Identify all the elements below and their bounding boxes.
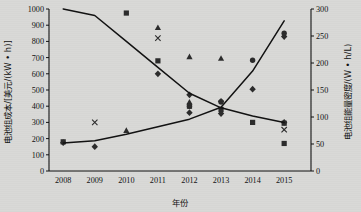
y-ticklabel-left: 600 xyxy=(32,70,44,79)
y-ticklabel-right: 300 xyxy=(316,5,328,14)
y-ticklabel-left: 100 xyxy=(32,151,44,160)
y-ticklabel-left: 300 xyxy=(32,118,44,127)
y-ticklabel-left: 700 xyxy=(32,54,44,63)
x-axis-label: 年份 xyxy=(172,198,189,208)
y-axis-left-label: 电池组成本/[美元/(kW • h)] xyxy=(3,40,13,143)
y-ticklabel-left: 400 xyxy=(32,102,44,111)
x-ticklabel: 2014 xyxy=(244,176,260,185)
x-ticklabel: 2015 xyxy=(276,176,292,185)
data-point-square xyxy=(282,141,287,146)
y-axis-right-label: 电池组能量密度/(W • h/L) xyxy=(343,44,353,141)
data-point-circle xyxy=(250,58,255,63)
y-ticklabel-left: 200 xyxy=(32,135,44,144)
data-point-square xyxy=(124,10,129,15)
y-ticklabel-right: 150 xyxy=(316,86,328,95)
y-ticklabel-right: 200 xyxy=(316,59,328,68)
data-point-square xyxy=(250,120,255,125)
y-ticklabel-right: 250 xyxy=(316,32,328,41)
y-ticklabel-left: 800 xyxy=(32,37,44,46)
x-ticklabel: 2009 xyxy=(87,176,103,185)
x-ticklabel: 2013 xyxy=(213,176,229,185)
y-ticklabel-right: 50 xyxy=(316,140,324,149)
y-ticklabel-right: 100 xyxy=(316,113,328,122)
y-ticklabel-left: 500 xyxy=(32,86,44,95)
data-point-circle xyxy=(218,99,223,104)
chart-figure: 01002003004005006007008009001000 0501001… xyxy=(0,0,361,212)
y-ticklabel-left: 1000 xyxy=(28,5,44,14)
x-ticklabel: 2010 xyxy=(118,176,134,185)
dual-axis-scatter-chart: 01002003004005006007008009001000 0501001… xyxy=(0,0,361,212)
y-ticklabel-right: 0 xyxy=(316,167,320,176)
data-point-square xyxy=(155,58,160,63)
x-ticklabel: 2012 xyxy=(181,176,197,185)
y-ticklabel-left: 900 xyxy=(32,21,44,30)
data-point-circle xyxy=(281,31,286,36)
data-point-circle xyxy=(187,104,192,109)
y-ticklabel-left: 0 xyxy=(40,167,44,176)
x-ticklabel: 2011 xyxy=(150,176,166,185)
x-ticklabel: 2008 xyxy=(55,176,71,185)
